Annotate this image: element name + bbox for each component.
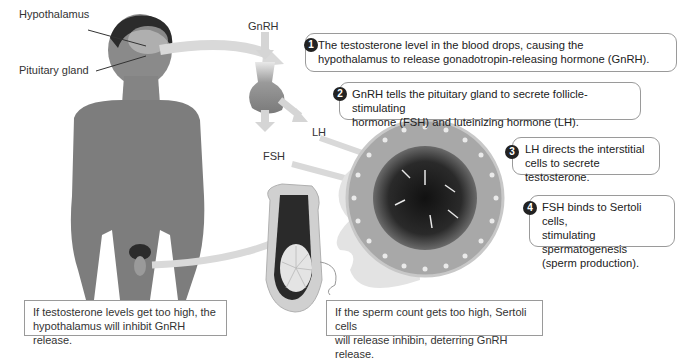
step-3-line-2: cells to secrete testosterone. [525,156,651,184]
testosterone-feedback-note: If testosterone levels get too high, the… [24,300,227,336]
step-2-callout: GnRH tells the pituitary gland to secret… [339,82,641,120]
step-1-badge: 1 [304,38,318,52]
note-2-line-1: If the sperm count gets too high, Sertol… [335,305,534,333]
step-4-callout: FSH binds to Sertoli cells, stimulating … [529,195,675,247]
note-2-line-2: will release inhibin, deterring GnRH rel… [335,333,534,361]
step-1-line-1: The testosterone level in the blood drop… [318,38,668,52]
note-1-line-1: If testosterone levels get too high, the [33,305,218,319]
step-2-badge: 2 [333,87,347,101]
step-3-line-1: LH directs the interstitial [525,142,651,156]
inhibin-feedback-note: If the sperm count gets too high, Sertol… [326,300,543,336]
fsh-label: FSH [263,150,285,162]
seminiferous-tubule [337,120,503,288]
step-4-badge: 4 [523,201,537,215]
step-4-line-1: FSH binds to Sertoli cells, [542,200,666,228]
step-2-line-2: hormone (FSH) and luteinizing hormone (L… [352,115,632,129]
human-figure [71,14,204,300]
step-1-callout: The testosterone level in the blood drop… [305,33,677,72]
step-2-line-1: GnRH tells the pituitary gland to secret… [352,87,632,115]
step-1-line-2: hypothalamus to release gonadotropin-rel… [318,52,668,66]
step-4-line-2: stimulating spermatogenesis [542,228,666,256]
gnrh-label: GnRH [248,20,279,32]
step-4-line-3: (sperm production). [542,256,666,270]
testis-illustration [266,184,336,312]
step-3-callout: LH directs the interstitial cells to sec… [512,137,660,175]
head-to-pituitary-arrow [160,45,270,55]
note-1-line-2: hypothalamus will inhibit GnRH release. [33,319,218,347]
step-3-badge: 3 [505,145,519,159]
lh-label: LH [312,126,326,138]
hypothalamus-label: Hypothalamus [19,8,89,20]
pituitary-gland-label: Pituitary gland [19,64,89,76]
